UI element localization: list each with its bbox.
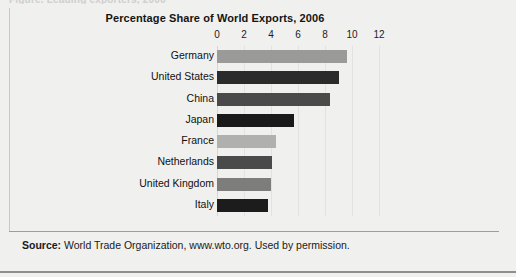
plot-area: 024681012GermanyUnited StatesChinaJapanF…	[217, 46, 400, 216]
panel-bottom-rule	[9, 231, 499, 232]
category-label: Japan	[14, 113, 214, 125]
source-footer: Source: World Trade Organization, www.wt…	[22, 239, 350, 251]
source-text: World Trade Organization, www.wto.org. U…	[64, 239, 350, 251]
x-tick-label-12: 12	[369, 29, 389, 40]
category-label: Netherlands	[14, 155, 214, 167]
bar	[217, 50, 347, 63]
category-label: France	[14, 134, 214, 146]
gridline-10	[352, 46, 353, 216]
figure-bottom-rule	[0, 271, 516, 273]
x-tick-label-8: 8	[315, 29, 335, 40]
x-tick-label-4: 4	[261, 29, 281, 40]
gridline-12	[379, 46, 380, 216]
category-label: United Kingdom	[14, 177, 214, 189]
category-label: Germany	[14, 49, 214, 61]
figure-container: Figure. Leading exporters, 2006 Percenta…	[0, 0, 516, 277]
category-label: United States	[14, 70, 214, 82]
bar	[217, 135, 276, 148]
x-tick-label-0: 0	[207, 29, 227, 40]
source-label: Source:	[22, 239, 61, 251]
x-tick-label-6: 6	[288, 29, 308, 40]
x-tick-label-10: 10	[342, 29, 362, 40]
chart-title: Percentage Share of World Exports, 2006	[0, 12, 430, 24]
x-tick-label-2: 2	[234, 29, 254, 40]
bar	[217, 114, 294, 127]
bar	[217, 178, 271, 191]
bar-chart: Percentage Share of World Exports, 2006 …	[0, 8, 516, 228]
bar	[217, 71, 339, 84]
bar	[217, 93, 330, 106]
category-label: Italy	[14, 198, 214, 210]
category-label: China	[14, 92, 214, 104]
bar	[217, 156, 272, 169]
clipped-caption-text: Figure. Leading exporters, 2006	[9, 0, 309, 4]
bar	[217, 199, 268, 212]
